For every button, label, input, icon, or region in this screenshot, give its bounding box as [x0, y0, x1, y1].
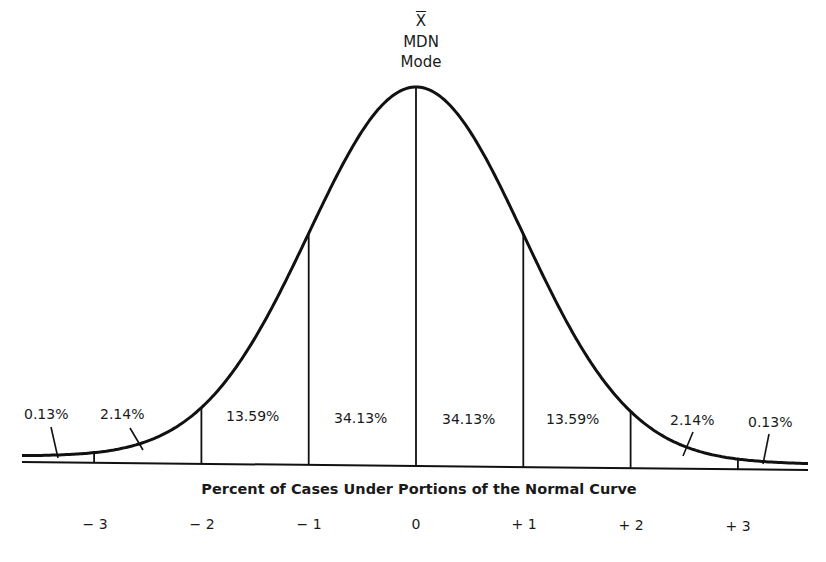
- tail-pointer-marks: [51, 427, 769, 464]
- tick-label-plus-1: + 1: [511, 516, 536, 532]
- percent-label-0-1sd-left: 34.13%: [334, 410, 387, 426]
- mean-label: X: [416, 12, 426, 31]
- percent-label-0-1sd-right: 34.13%: [442, 411, 495, 427]
- tick-label-plus-3: + 3: [725, 518, 750, 534]
- percent-label-1sd-2sd-left: 13.59%: [226, 408, 279, 424]
- mode-label: Mode: [401, 53, 442, 72]
- pointer-right-2-14: [683, 432, 693, 456]
- chart-caption: Percent of Cases Under Portions of the N…: [201, 481, 636, 497]
- percent-label-2sd-3sd-right: 2.14%: [670, 412, 714, 428]
- median-label: MDN: [403, 33, 439, 52]
- percent-label-tail-left: 0.13%: [24, 406, 68, 422]
- sigma-divider-lines: [94, 87, 738, 469]
- normal-curve-chart: [0, 0, 826, 562]
- tick-label-minus-1: − 1: [296, 516, 321, 532]
- tick-label-minus-2: − 2: [189, 516, 214, 532]
- pointer-right-0-13: [763, 434, 769, 464]
- tick-label-0: 0: [412, 516, 421, 532]
- tick-label-minus-3: − 3: [82, 516, 107, 532]
- percent-label-tail-right: 0.13%: [748, 414, 792, 430]
- percent-label-1sd-2sd-right: 13.59%: [546, 411, 599, 427]
- percent-label-2sd-3sd-left: 2.14%: [100, 406, 144, 422]
- tick-label-plus-2: + 2: [618, 517, 643, 533]
- x-axis-baseline: [22, 462, 808, 470]
- pointer-left-0-13: [51, 427, 58, 458]
